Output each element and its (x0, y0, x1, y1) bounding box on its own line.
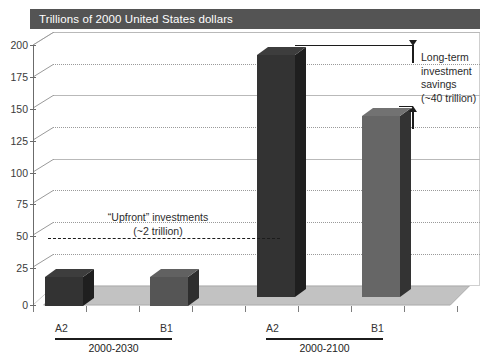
x-tick-7 (404, 306, 405, 312)
x-tick-4 (245, 306, 246, 312)
annotation-upfront-line2: (~2 trillion) (78, 225, 238, 239)
y-tick-label-150: 150 (2, 104, 28, 114)
annotation-upfront-line1: “Upfront” investments (78, 211, 238, 225)
y-tick-mark-175 (30, 77, 36, 78)
y-tick-125: 125 (0, 136, 486, 148)
y-tick-mark-50 (30, 236, 36, 237)
bar-2000-2030-b1[interactable] (150, 266, 188, 306)
y-tick-mark-100 (30, 173, 36, 174)
annotation-savings: Long-term investment savings (~40 trilli… (421, 51, 485, 105)
gridline-200 (53, 32, 480, 33)
y-tick-175: 175 (0, 72, 486, 84)
y-tick-mark-75 (30, 204, 36, 205)
savings-arrow-shaft-bottom (412, 111, 414, 129)
y-tick-label-125: 125 (2, 136, 28, 146)
savings-arrow-head-down (409, 106, 417, 112)
y-tick-label-200: 200 (2, 40, 28, 50)
annotation-upfront: “Upfront” investments (~2 trillion) (78, 211, 238, 238)
y-tick-100: 100 (0, 168, 486, 180)
bar-2000-2100-b1[interactable] (362, 105, 400, 300)
y-tick-mark-25 (30, 268, 36, 269)
y-tick-label-25: 25 (2, 263, 28, 273)
annotation-savings-line3: savings (421, 78, 485, 92)
y-tick-75: 75 (0, 199, 486, 211)
x-tick-8 (457, 306, 458, 312)
y-tick-50: 50 (0, 231, 486, 243)
x-label-group2-b1: B1 (371, 322, 384, 334)
savings-arrow-shaft-top (412, 45, 414, 63)
group-rule-2000-2100 (266, 338, 383, 340)
bar-2000-2030-a2[interactable] (45, 266, 83, 306)
chart-root: Trillions of 2000 United States dollars (0, 0, 486, 361)
x-label-group1-b1: B1 (160, 322, 173, 334)
y-tick-label-50: 50 (2, 231, 28, 241)
group-label-2000-2100: 2000-2100 (266, 342, 383, 354)
annotation-savings-line1: Long-term (421, 51, 485, 65)
y-tick-label-75: 75 (2, 199, 28, 209)
y-tick-mark-150 (30, 109, 36, 110)
y-tick-label-100: 100 (2, 168, 28, 178)
x-label-group2-a2: A2 (266, 322, 279, 334)
bar-2000-2100-a2[interactable] (257, 44, 295, 300)
annotation-upfront-leader (48, 238, 280, 239)
x-tick-5 (298, 306, 299, 312)
x-tick-3 (192, 306, 193, 312)
savings-arrow-head-up (409, 40, 417, 46)
x-tick-6 (351, 306, 352, 312)
group-rule-2000-2030 (55, 338, 172, 340)
annotation-savings-line4: (~40 trillion) (421, 92, 485, 106)
group-label-2000-2030: 2000-2030 (55, 342, 172, 354)
plot-area: 200 175 150 125 100 75 50 25 (0, 0, 486, 361)
annotation-savings-line2: investment (421, 65, 485, 79)
y-tick-mark-125 (30, 141, 36, 142)
y-tick-label-175: 175 (2, 72, 28, 82)
x-label-group1-a2: A2 (55, 322, 68, 334)
y-tick-mark-200 (30, 45, 36, 46)
x-tick-0 (33, 306, 34, 312)
x-tick-1 (86, 306, 87, 312)
savings-leader-top (295, 45, 413, 46)
x-tick-2 (139, 306, 140, 312)
y-tick-label-0: 0 (2, 300, 28, 310)
